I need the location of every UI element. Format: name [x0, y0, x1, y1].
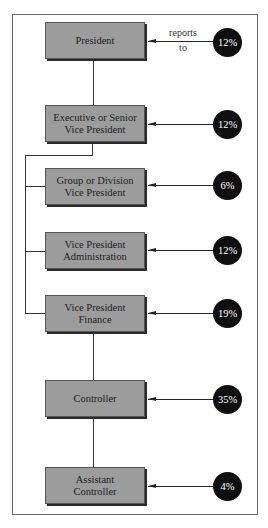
box-title-line2: Controller: [73, 486, 116, 498]
connector-bracket-finance: [25, 313, 45, 314]
percent-badge-assistant-controller: 4%: [213, 472, 242, 501]
box-title-line1: Assistant: [73, 474, 116, 486]
box-vp-administration: Vice PresidentAdministration: [45, 232, 145, 269]
box-title-line1: Vice President: [65, 302, 126, 314]
percent-badge-controller: 35%: [213, 385, 242, 414]
arrow-left-icon: [148, 313, 213, 314]
connector-finance-controller: [93, 333, 94, 380]
arrow-left-icon: [148, 185, 213, 186]
box-title: President: [75, 35, 114, 47]
box-controller: Controller: [45, 380, 145, 417]
box-title-line2: Administration: [63, 251, 127, 263]
box-title-line1: Group or Division: [57, 175, 134, 187]
box-title: Controller: [73, 393, 116, 405]
percent-badge-group-vp: 6%: [213, 171, 242, 200]
box-executive-vp: Executive or SeniorVice President: [45, 105, 145, 142]
box-group-vp: Group or DivisionVice President: [45, 168, 145, 205]
connector-bracket-group: [25, 186, 45, 187]
arrow-left-icon: [148, 399, 213, 400]
box-title-line1: Executive or Senior: [53, 112, 136, 124]
reports-to-label: reports to: [160, 27, 206, 54]
box-title-line2: Finance: [65, 314, 126, 326]
connector-controller-assistant: [93, 418, 94, 467]
box-title-line2: Vice President: [53, 124, 136, 136]
bracket-line: [25, 155, 26, 314]
arrow-left-icon: [148, 250, 213, 251]
percent-badge-executive-vp: 12%: [213, 110, 242, 139]
connector-bracket-admin: [25, 251, 45, 252]
box-title-line1: Vice President: [63, 239, 127, 251]
box-president: President: [45, 22, 145, 59]
percent-badge-president: 12%: [213, 28, 242, 57]
box-assistant-controller: AssistantController: [45, 467, 145, 504]
arrow-left-icon: [148, 486, 213, 487]
box-vp-finance: Vice PresidentFinance: [45, 295, 145, 332]
connector-exec-bracket: [25, 155, 93, 156]
box-title-line2: Vice President: [57, 187, 134, 199]
arrow-left-icon: [148, 124, 213, 125]
percent-badge-vp-administration: 12%: [213, 236, 242, 265]
connector-president-exec: [93, 60, 94, 105]
percent-badge-vp-finance: 19%: [213, 299, 242, 328]
